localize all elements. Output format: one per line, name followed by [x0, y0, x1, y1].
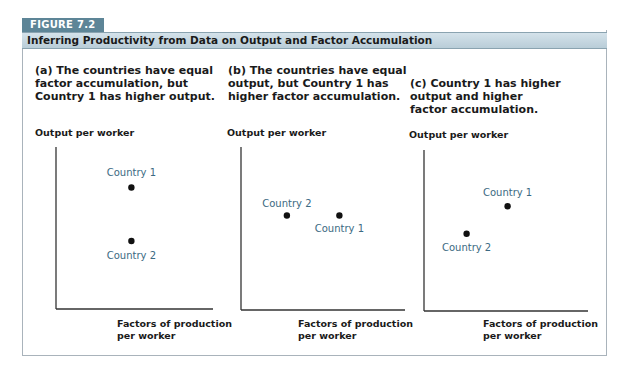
data-point-label: Country 1 [107, 167, 156, 178]
data-point [128, 238, 134, 244]
data-point [284, 212, 290, 218]
data-points-layer: Country 1Country 2Country 2Country 1Coun… [0, 0, 634, 375]
data-point-label: Country 2 [107, 250, 156, 261]
data-point [463, 231, 469, 237]
data-point [336, 212, 342, 218]
data-point-label: Country 2 [262, 198, 311, 209]
data-point-label: Country 1 [483, 187, 532, 198]
data-point [504, 203, 510, 209]
data-point-label: Country 1 [315, 223, 364, 234]
data-point-label: Country 2 [442, 242, 491, 253]
data-point [128, 184, 134, 190]
